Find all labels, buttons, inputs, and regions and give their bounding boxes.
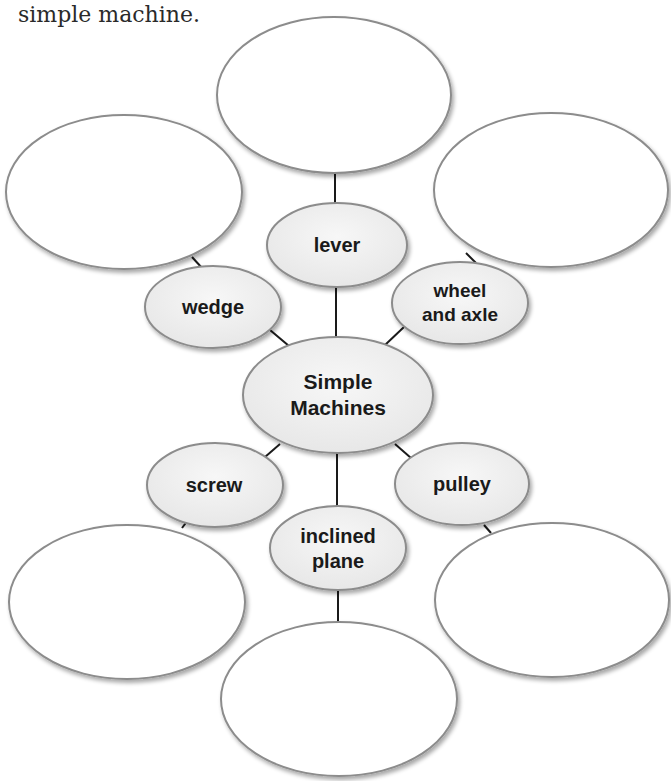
center-node: Simple Machines — [243, 337, 433, 453]
connector-pulley-answer — [484, 525, 491, 533]
connector-pulley-center — [395, 444, 411, 458]
node-pulley: pulley — [395, 443, 529, 525]
node-inclined-label-line1: inclined — [300, 525, 376, 547]
node-wheel-and-axle: wheel and axle — [392, 262, 528, 344]
connector-screw-center — [265, 444, 280, 457]
answer-oval-inclined-plane[interactable] — [221, 622, 457, 776]
node-wheel-label-line1: wheel — [433, 280, 487, 301]
node-inclined-label-line2: plane — [312, 550, 364, 572]
node-lever-label: lever — [314, 234, 361, 256]
answer-oval-lever[interactable] — [217, 17, 451, 173]
connector-wedge-center — [270, 330, 289, 346]
node-lever: lever — [267, 203, 407, 287]
center-label-line2: Machines — [290, 396, 386, 419]
node-wedge: wedge — [145, 266, 281, 348]
node-screw-label: screw — [186, 474, 243, 496]
connector-wheel-center — [385, 327, 404, 345]
node-wheel-label-line2: and axle — [422, 304, 498, 325]
simple-machines-web: lever wedge wheel and axle screw pulley … — [0, 0, 671, 781]
answer-oval-wedge[interactable] — [6, 115, 242, 269]
node-wedge-label: wedge — [181, 296, 244, 318]
answer-oval-screw[interactable] — [9, 525, 245, 679]
center-label-line1: Simple — [304, 370, 373, 393]
node-pulley-label: pulley — [433, 473, 492, 495]
node-inclined-plane: inclined plane — [270, 506, 406, 590]
node-screw: screw — [147, 443, 283, 527]
answer-oval-pulley[interactable] — [435, 523, 669, 677]
answer-oval-wheel-and-axle[interactable] — [434, 113, 668, 267]
